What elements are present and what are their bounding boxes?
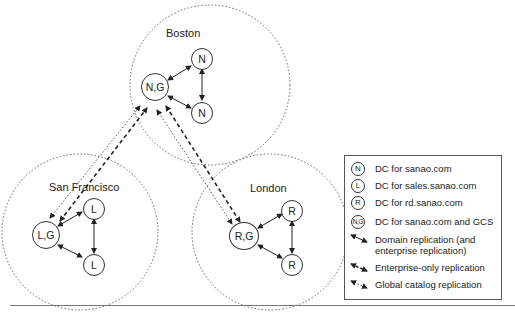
node-r-icon: R [351, 196, 365, 210]
node-sf-l2: L [83, 254, 105, 276]
site-label-sanfrancisco: San Francisco [49, 181, 119, 193]
node-boston-n2: N [191, 102, 213, 124]
node-sf-lg: L,G [32, 221, 60, 249]
site-label-boston: Boston [166, 27, 200, 39]
dashed-arrow-icon [349, 261, 371, 277]
legend-item-ng: N,G DC for sanao.com and GCS [349, 215, 493, 231]
node-london-r2: R [281, 254, 303, 276]
node-sf-l1: L [83, 198, 105, 220]
node-n-icon: N [351, 162, 365, 176]
legend-item-n: N DC for sanao.com [349, 162, 452, 178]
site-label-london: London [250, 182, 287, 194]
solid-arrow-icon [349, 233, 371, 249]
node-london-rg: R,G [229, 222, 259, 250]
node-l-icon: L [351, 179, 365, 193]
dotted-arrow-icon [349, 278, 371, 294]
legend: N DC for sanao.com L DC for sales.sanao.… [344, 155, 502, 300]
legend-item-enterprise-replication: Enterprise-only replication [349, 261, 485, 277]
bottom-rule [10, 305, 515, 306]
site-sanfrancisco-boundary [2, 154, 158, 310]
node-london-r1: R [281, 200, 303, 222]
node-ng-icon: N,G [351, 215, 365, 229]
node-boston-n1: N [191, 48, 213, 70]
legend-item-r: R DC for rd.sanao.com [349, 196, 463, 212]
legend-item-global-catalog: Global catalog replication [349, 278, 482, 294]
node-boston-ng: N,G [141, 73, 169, 101]
site-london-boundary [192, 154, 348, 310]
legend-item-l: L DC for sales.sanao.com [349, 179, 476, 195]
legend-item-domain-replication: Domain replication (and enterprise repli… [349, 233, 499, 256]
